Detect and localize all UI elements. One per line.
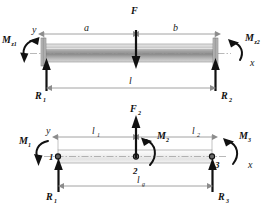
dimension-l2-label: l xyxy=(192,126,195,136)
figure-canvas: a b y F M z1 xyxy=(0,0,273,208)
top-beam-body xyxy=(44,44,215,62)
top-left-moment-label: M xyxy=(1,34,12,45)
bottom-M1-sublabel: 1 xyxy=(28,142,31,148)
bottom-R3-sublabel: 3 xyxy=(225,198,229,204)
bottom-F2-label: F xyxy=(129,103,137,114)
dimension-lg-sublabel: g xyxy=(142,181,145,187)
dimension-b-label: b xyxy=(173,22,178,33)
top-axis-x-label: x xyxy=(249,57,255,68)
top-reaction-R1-sublabel: 1 xyxy=(43,97,46,103)
top-right-moment-sublabel: z2 xyxy=(254,39,260,45)
node-1-marker xyxy=(55,154,60,159)
dimension-a-label: a xyxy=(84,22,89,33)
top-reaction-R1-label: R xyxy=(34,90,42,101)
node-1-label: 1 xyxy=(49,152,54,162)
bottom-axis-y-label: y xyxy=(45,125,51,136)
top-right-moment-label: M xyxy=(244,32,255,43)
dimension-l-label: l xyxy=(129,75,132,86)
bottom-M3-sublabel: 3 xyxy=(247,137,251,143)
top-reaction-R2-label: R xyxy=(220,90,228,101)
top-point-load-label: F xyxy=(130,5,138,16)
dimension-l1-label: l xyxy=(92,126,95,136)
bottom-F2-sublabel: 2 xyxy=(137,110,141,116)
node-3-marker xyxy=(209,154,214,159)
bottom-axis-x-label: x xyxy=(247,159,253,170)
top-axis-y-label: y xyxy=(31,24,37,35)
bottom-M2-sublabel: 2 xyxy=(165,137,169,143)
bottom-R1-sublabel: 1 xyxy=(54,198,57,204)
top-left-moment-sublabel: z1 xyxy=(11,41,17,47)
top-reaction-R2-sublabel: 2 xyxy=(228,97,232,103)
dimension-l1-sublabel: 1 xyxy=(97,132,100,138)
dimension-lg-label: l xyxy=(137,175,140,185)
dimension-l2-sublabel: 2 xyxy=(197,132,200,138)
bottom-R3-label: R xyxy=(217,191,225,202)
bottom-R1-label: R xyxy=(45,191,53,202)
